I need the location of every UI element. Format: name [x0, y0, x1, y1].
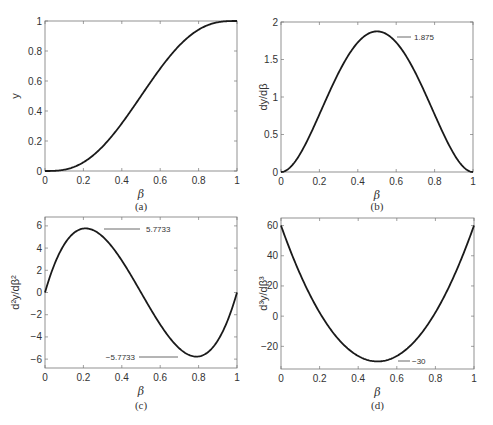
y-tick-label: 0.4 — [28, 106, 42, 117]
x-tick-label: 0.2 — [76, 175, 90, 186]
subplot-caption: (b) — [371, 200, 384, 213]
x-tick-label: 0.6 — [390, 373, 404, 384]
y-tick-label: 2 — [36, 265, 42, 276]
x-tick-label: 0.2 — [312, 176, 326, 187]
subplot-d: 00.20.40.60.81−200204060β(d)d³y/dβ³−30 — [257, 218, 477, 412]
subplot-a: 00.20.40.60.8100.20.40.60.81β(a)y — [9, 16, 240, 214]
y-tick-label: −20 — [261, 341, 278, 352]
annotation-label: −30 — [412, 357, 426, 366]
x-tick-label: 0.6 — [153, 372, 167, 383]
x-tick-label: 1 — [234, 175, 240, 186]
y-tick-label: 0.6 — [28, 76, 42, 87]
y-axis-label: dy/dβ — [257, 83, 269, 110]
x-tick-label: 0.6 — [153, 175, 167, 186]
y-tick-label: 1 — [272, 92, 278, 103]
y-axis-label: y — [9, 93, 21, 99]
x-tick-label: 0 — [278, 176, 284, 187]
x-tick-label: 0.2 — [76, 372, 90, 383]
x-tick-label: 0.8 — [192, 372, 206, 383]
subplot-caption: (d) — [371, 399, 384, 412]
y-tick-label: 1 — [36, 16, 42, 27]
data-curve — [45, 228, 237, 356]
y-tick-label: 1.5 — [264, 54, 278, 65]
x-tick-label: 0 — [278, 373, 284, 384]
y-axis-label: d²y/dβ² — [9, 275, 21, 310]
y-tick-label: 0 — [36, 166, 42, 177]
figure: 00.20.40.60.8100.20.40.60.81β(a)y 00.20.… — [0, 0, 493, 425]
y-tick-label: 40 — [267, 250, 279, 261]
x-axis-label: β — [137, 385, 144, 398]
y-tick-label: 0 — [36, 287, 42, 298]
annotation-label: −5.7733 — [106, 353, 136, 362]
y-tick-label: 0.2 — [28, 136, 42, 147]
y-tick-label: −6 — [31, 354, 43, 365]
x-tick-label: 0 — [42, 175, 48, 186]
x-tick-label: 0.4 — [351, 176, 365, 187]
x-tick-label: 0.8 — [428, 373, 442, 384]
x-tick-label: 1 — [234, 372, 240, 383]
annotation-label: 1.875 — [414, 33, 435, 42]
y-tick-label: −2 — [31, 309, 43, 320]
subplot-caption: (a) — [135, 200, 148, 213]
x-tick-label: 0.2 — [313, 373, 327, 384]
data-curve — [45, 21, 237, 171]
x-tick-label: 0.8 — [428, 176, 442, 187]
x-axis-label: β — [373, 386, 380, 399]
x-tick-label: 0.6 — [389, 176, 403, 187]
x-tick-label: 0.8 — [192, 175, 206, 186]
x-tick-label: 0.4 — [115, 372, 129, 383]
y-tick-label: 0.8 — [28, 46, 42, 57]
x-tick-label: 0.4 — [115, 175, 129, 186]
y-tick-label: 2 — [272, 17, 278, 28]
data-curve — [281, 31, 473, 172]
subplot-caption: (c) — [135, 399, 148, 412]
axes-box — [281, 22, 473, 172]
y-tick-label: 6 — [36, 220, 42, 231]
subplot-b: 00.20.40.60.8100.511.52β(b)dy/dβ1.875 — [257, 17, 476, 214]
x-tick-label: 0.4 — [351, 373, 365, 384]
annotation-label: 5.7733 — [146, 225, 171, 234]
y-axis-label: d³y/dβ³ — [257, 276, 269, 311]
data-curve — [281, 226, 474, 362]
y-tick-label: 0.5 — [264, 129, 278, 140]
y-tick-label: 0 — [272, 311, 278, 322]
y-tick-label: 0 — [272, 167, 278, 178]
subplot-c: 00.20.40.60.81−6−4−20246β(c)d²y/dβ²5.773… — [9, 217, 240, 412]
x-tick-label: 0 — [42, 372, 48, 383]
x-tick-label: 1 — [470, 176, 476, 187]
x-tick-label: 1 — [471, 373, 477, 384]
y-tick-label: 4 — [36, 243, 42, 254]
y-tick-label: −4 — [31, 331, 43, 342]
y-tick-label: 60 — [267, 220, 279, 231]
